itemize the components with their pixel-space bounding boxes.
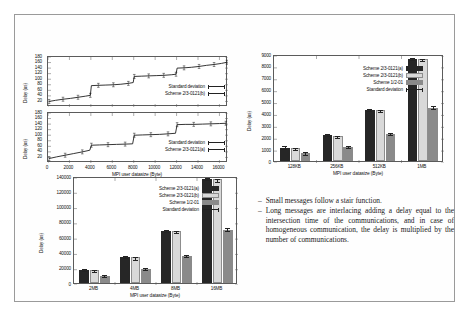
legend-label-scheme-c-bottom: Scheme 1/2-01: [169, 200, 199, 205]
bullet-dash-2: –: [258, 206, 262, 244]
legend-swatch-scheme-b-bottom: [202, 193, 219, 197]
y-tick-label: 60: [28, 87, 42, 92]
y-tick-label: 80: [28, 81, 42, 86]
y-tick-label: 9000: [245, 53, 271, 58]
bullet-item-1: – Small messages follow a stair function…: [258, 196, 454, 206]
legend-lower: Standard deviation Scheme 2/3-0121(a): [107, 139, 225, 153]
x-tick-label: 8000: [123, 165, 143, 170]
y-tick-label: 140: [28, 121, 42, 126]
legend-label-scheme-a-bottom: Scheme 2/3-0121(a): [159, 186, 199, 191]
x-tick-label: 10000: [144, 165, 164, 170]
chart-top-left-upper: Delay (us) 20406080100120140160180 Stand…: [15, 53, 233, 113]
x-tick-label: 16MB: [196, 286, 237, 291]
y-tick-label: 6000: [245, 88, 271, 93]
y-tick-label: 1000: [245, 148, 271, 153]
legend-swatch-stddev-upper: [208, 86, 225, 87]
y-tick-label: 120000: [37, 190, 71, 195]
y-tick-label: 40: [28, 148, 42, 153]
legend-label-scheme-a-right: Scheme 2/3-0121(a): [363, 66, 403, 71]
legend-swatch-scheme-a-lower: [208, 149, 225, 150]
x-tick-label: 128KB: [273, 164, 316, 169]
legend-swatch-scheme-b-upper: [208, 93, 225, 94]
bullet-item-2: – Long messages are interlacing adding a…: [258, 206, 454, 244]
legend-swatch-scheme-a-bottom: [202, 186, 219, 190]
legend-swatch-scheme-a-right: [406, 66, 423, 70]
x-tick-label: 8MB: [155, 286, 196, 291]
line-plot-upper: [48, 57, 228, 107]
x-tick-label: 0: [37, 165, 57, 170]
legend-label-stddev-lower: Standard deviation: [169, 140, 205, 145]
legend-swatch-stddev-bottom: [202, 209, 219, 210]
y-tick-label: 180: [28, 110, 42, 115]
legend-bottom: Scheme 2/3-0121(a) Scheme 2/3-0121(b) Sc…: [97, 185, 219, 213]
slide-frame: Delay (us) 20406080100120140160180 Stand…: [14, 14, 455, 302]
legend-swatch-stddev-right: [406, 89, 423, 90]
y-tick-label: 80: [28, 137, 42, 142]
legend-upper: Standard deviation Scheme 2/3-0121(b): [107, 83, 225, 97]
x-tick-label: 256KB: [316, 164, 359, 169]
legend-label-stddev-upper: Standard deviation: [169, 84, 205, 89]
x-tick-label: 2000: [58, 165, 78, 170]
plot-area-lower: [47, 112, 227, 162]
chart-right-bar: Delay (us) 01000200030004000500060007000…: [241, 53, 453, 183]
y-tick-label: 20: [28, 98, 42, 103]
legend-label-scheme-b-upper: Scheme 2/3-0121(b): [165, 91, 205, 96]
y-tick-label: 0: [245, 160, 271, 165]
y-tick-label: 80000: [37, 220, 71, 225]
y-tick-label: 100000: [37, 205, 71, 210]
x-tick-label: 512KB: [358, 164, 401, 169]
y-tick-label: 100: [28, 132, 42, 137]
y-tick-label: 4000: [245, 112, 271, 117]
y-tick-label: 140: [28, 65, 42, 70]
y-tick-label: 40000: [37, 251, 71, 256]
y-tick-label: 60000: [37, 236, 71, 241]
x-tick-label: 4MB: [114, 286, 155, 291]
y-tick-label: 60: [28, 143, 42, 148]
y-tick-label: 160: [28, 59, 42, 64]
bullet-dash-1: –: [258, 196, 262, 206]
y-tick-label: 20000: [37, 266, 71, 271]
legend-label-stddev-right: Standard deviation: [367, 87, 403, 92]
y-tick-label: 7000: [245, 76, 271, 81]
legend-swatch-scheme-b-right: [406, 73, 423, 77]
x-tick-label: 4000: [80, 165, 100, 170]
plot-area-upper: [47, 56, 227, 106]
x-axis-label-bottom: MPI user datasize (Byte): [73, 293, 237, 298]
x-tick-label: 6000: [101, 165, 121, 170]
y-tick-label: 0: [37, 282, 71, 287]
x-tick-label: 14000: [187, 165, 207, 170]
bullet-list: – Small messages follow a stair function…: [258, 196, 454, 245]
x-axis-label-right: MPI user datasize (Byte): [273, 171, 443, 176]
y-tick-label: 120: [28, 126, 42, 131]
bullet-text-1: Small messages follow a stair function.: [266, 196, 454, 206]
y-tick-label: 8000: [245, 64, 271, 69]
x-tick-label: 2MB: [73, 286, 114, 291]
legend-swatch-scheme-c-bottom: [202, 200, 219, 204]
legend-right: Scheme 2/3-0121(a) Scheme 2/3-0121(b) Sc…: [303, 65, 423, 93]
chart-bottom-bar: Delay (us) 02000040000600008000010000012…: [35, 175, 247, 303]
y-tick-label: 2000: [245, 136, 271, 141]
y-tick-label: 180: [28, 54, 42, 59]
x-tick-label: 16000: [208, 165, 228, 170]
legend-label-scheme-b-bottom: Scheme 2/3-0121(b): [159, 193, 199, 198]
y-tick-label: 20: [28, 154, 42, 159]
bullet-text-2: Long messages are interlacing adding a d…: [266, 206, 454, 244]
legend-label-scheme-c-right: Scheme 1/2-01: [373, 80, 403, 85]
y-tick-label: 5000: [245, 100, 271, 105]
legend-swatch-scheme-c-right: [406, 80, 423, 84]
y-tick-label: 120: [28, 70, 42, 75]
legend-label-scheme-a-lower: Scheme 2/3-0121(a): [165, 147, 205, 152]
legend-label-scheme-b-right: Scheme 2/3-0121(b): [363, 73, 403, 78]
y-tick-label: 140000: [37, 175, 71, 180]
legend-swatch-stddev-lower: [208, 142, 225, 143]
x-tick-label: 12000: [166, 165, 186, 170]
y-tick-label: 100: [28, 76, 42, 81]
x-tick-label: 1MB: [401, 164, 444, 169]
y-tick-label: 3000: [245, 124, 271, 129]
chart-top-left-lower: Delay (us) 20406080100120140160180 Stand…: [15, 109, 233, 181]
line-plot-lower: [48, 113, 228, 163]
y-tick-label: 40: [28, 92, 42, 97]
y-tick-label: 160: [28, 115, 42, 120]
legend-label-stddev-bottom: Standard deviation: [163, 207, 199, 212]
